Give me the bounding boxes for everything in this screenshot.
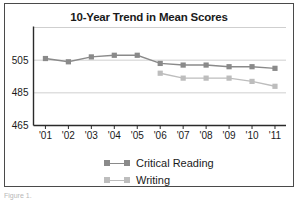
y-tick-label-465: 465 <box>12 120 29 131</box>
y-tick-label-505: 505 <box>12 55 29 66</box>
x-tick-label-02: '02 <box>62 130 75 141</box>
data-point-critical-reading-03 <box>89 54 94 59</box>
legend-swatch-writing <box>104 175 130 186</box>
series-line-writing <box>160 73 275 86</box>
legend-swatch-critical-reading <box>104 158 130 169</box>
data-point-writing-09 <box>226 76 231 81</box>
data-point-writing-06 <box>158 71 163 76</box>
data-point-critical-reading-01 <box>43 56 48 61</box>
figure-container: 10-Year Trend in Mean Scores 465485505'0… <box>0 0 301 201</box>
legend-marker-writing-start <box>104 177 110 183</box>
x-tick-label-08: '08 <box>200 130 213 141</box>
x-tick-label-01: '01 <box>39 130 52 141</box>
legend-marker-critical-reading-start <box>104 160 110 166</box>
y-tick-label-485: 485 <box>12 87 29 98</box>
legend-label-critical-reading: Critical Reading <box>136 157 214 169</box>
legend-marker-critical-reading-end <box>124 160 130 166</box>
legend-item-writing: Writing <box>104 172 284 188</box>
data-point-writing-11 <box>272 84 277 89</box>
x-tick-label-04: '04 <box>108 130 121 141</box>
legend-item-critical-reading: Critical Reading <box>104 155 284 171</box>
data-point-critical-reading-05 <box>135 53 140 58</box>
x-tick-label-09: '09 <box>223 130 236 141</box>
data-point-critical-reading-04 <box>112 53 117 58</box>
data-point-critical-reading-02 <box>66 59 71 64</box>
x-tick-label-06: '06 <box>154 130 167 141</box>
data-point-critical-reading-08 <box>204 62 209 67</box>
data-point-critical-reading-09 <box>226 64 231 69</box>
legend-marker-writing-end <box>124 177 130 183</box>
chart-legend: Critical Reading Writing <box>104 155 284 189</box>
data-point-writing-07 <box>181 76 186 81</box>
data-point-writing-08 <box>204 76 209 81</box>
data-point-writing-10 <box>249 79 254 84</box>
figure-caption: Figure 1. <box>4 190 296 201</box>
legend-label-writing: Writing <box>136 174 170 186</box>
data-point-critical-reading-07 <box>181 62 186 67</box>
x-tick-label-10: '10 <box>246 130 259 141</box>
data-point-critical-reading-10 <box>249 64 254 69</box>
data-point-critical-reading-11 <box>272 66 277 71</box>
x-tick-label-05: '05 <box>131 130 144 141</box>
x-tick-label-03: '03 <box>85 130 98 141</box>
data-point-critical-reading-06 <box>158 61 163 66</box>
x-tick-label-11: '11 <box>269 130 282 141</box>
x-tick-label-07: '07 <box>177 130 190 141</box>
